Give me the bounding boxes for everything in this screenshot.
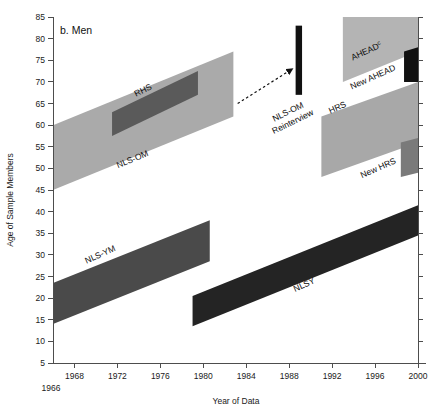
y-axis-title: Age of Sample Members — [5, 153, 15, 247]
y-axis-tick-label: 65 — [36, 99, 46, 109]
x-axis-tick-label: 1976 — [151, 371, 170, 381]
x-axis-tick-label: 1972 — [108, 371, 127, 381]
figure-panel-b-men: 5101520253035404550556065707580851968197… — [0, 0, 436, 410]
page-title: b. Men — [60, 24, 92, 36]
data-band-nls-om-reinterview — [296, 26, 302, 95]
y-axis-tick-label: 40 — [36, 207, 46, 217]
nlsom-reinterview-arrow — [238, 69, 293, 104]
x-axis-title: Year of Data — [213, 396, 260, 406]
y-axis-tick-label: 50 — [36, 163, 46, 173]
annotations-group — [238, 69, 293, 104]
y-axis-tick-label: 5 — [40, 358, 45, 368]
y-axis-tick-label: 20 — [36, 293, 46, 303]
data-band-nlsy — [193, 205, 418, 326]
y-axis-tick-label: 35 — [36, 228, 46, 238]
y-axis-tick-label: 60 — [36, 120, 46, 130]
x-axis-tick-label: 1996 — [366, 371, 385, 381]
y-axis-tick-label: 10 — [36, 336, 46, 346]
x-axis-tick-label: 1988 — [280, 371, 299, 381]
data-band-new-hrs — [401, 138, 418, 177]
y-axis-tick-label: 80 — [36, 34, 46, 44]
data-band-new-ahead — [404, 47, 418, 82]
y-axis-tick-label: 25 — [36, 272, 46, 282]
x-axis-tick-label: 1980 — [194, 371, 213, 381]
y-axis-tick-label: 85 — [36, 12, 46, 22]
x-axis-tick-label: 2000 — [409, 371, 428, 381]
y-axis-tick-label: 45 — [36, 185, 46, 195]
x-axis-tick-label: 1968 — [65, 371, 84, 381]
y-axis-tick-label: 55 — [36, 142, 46, 152]
y-axis-tick-label: 70 — [36, 77, 46, 87]
y-axis-tick-label: 75 — [36, 55, 46, 65]
chart-canvas: 5101520253035404550556065707580851968197… — [0, 0, 436, 410]
x-axis-tick-label: 1992 — [323, 371, 342, 381]
x-axis-origin-label: 1966 — [42, 383, 61, 393]
y-axis-tick-label: 30 — [36, 250, 46, 260]
y-axis-tick-label: 15 — [36, 315, 46, 325]
x-axis-tick-label: 1984 — [237, 371, 256, 381]
band-label-nls-om-reinterview: NLS-OMReinterview — [265, 97, 315, 136]
data-band-nls-ym — [53, 220, 210, 324]
